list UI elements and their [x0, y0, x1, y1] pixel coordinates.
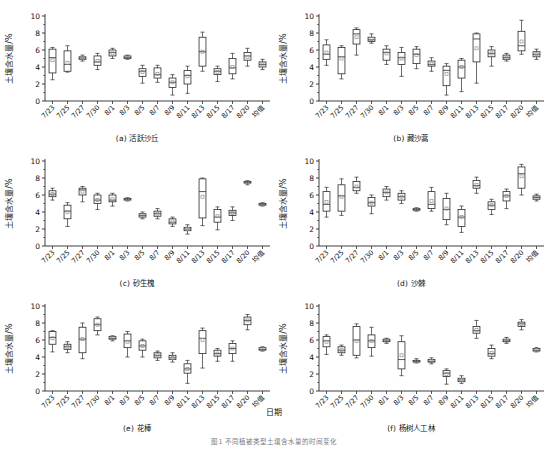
svg-text:0: 0 — [309, 387, 314, 396]
svg-text:8/1: 8/1 — [103, 104, 116, 117]
svg-text:土壤含水量/%: 土壤含水量/% — [4, 178, 14, 229]
svg-text:6: 6 — [35, 191, 40, 200]
svg-text:8/20: 8/20 — [509, 249, 525, 265]
svg-text:7/23: 7/23 — [40, 249, 56, 265]
figure-caption: 图1 不同植被类型土壤含水量的时间变化 — [0, 436, 548, 446]
svg-text:8/17: 8/17 — [220, 104, 236, 120]
panel-e-caption: (e) 花棒 — [0, 422, 274, 433]
svg-text:均值: 均值 — [524, 248, 540, 264]
panel-a: 0246810土壤含水量/%7/237/257/277/308/18/38/58… — [0, 4, 274, 149]
svg-text:8/11: 8/11 — [175, 104, 191, 120]
svg-text:8/15: 8/15 — [479, 249, 495, 265]
svg-text:6: 6 — [35, 46, 40, 55]
svg-text:8/13: 8/13 — [464, 104, 480, 120]
panel-c-plot: 0246810土壤含水量/%7/237/257/277/308/18/38/58… — [0, 149, 274, 294]
svg-text:均值: 均值 — [250, 248, 266, 264]
panel-b-plot: 0246810土壤含水量/%7/237/257/277/308/18/38/58… — [274, 4, 548, 149]
svg-text:8/5: 8/5 — [133, 249, 146, 262]
panel-f-caption: (f) 杨树人工林 — [274, 422, 548, 433]
svg-text:7/27: 7/27 — [70, 104, 86, 120]
svg-text:4: 4 — [35, 208, 40, 217]
svg-text:8/13: 8/13 — [190, 249, 206, 265]
svg-text:7/30: 7/30 — [85, 249, 101, 265]
svg-text:均值: 均值 — [250, 103, 266, 119]
svg-text:8/1: 8/1 — [103, 249, 116, 262]
svg-text:8/11: 8/11 — [449, 249, 465, 265]
svg-text:7/30: 7/30 — [85, 104, 101, 120]
svg-text:8/3: 8/3 — [392, 249, 405, 262]
panel-f-plot: 0246810土壤含水量/%7/237/257/277/308/18/38/58… — [274, 294, 548, 439]
svg-text:2: 2 — [309, 370, 314, 379]
svg-text:8/1: 8/1 — [377, 249, 390, 262]
svg-text:2: 2 — [35, 225, 40, 234]
svg-text:土壤含水量/%: 土壤含水量/% — [4, 33, 14, 84]
panel-a-caption: (a) 活跃沙丘 — [0, 132, 274, 143]
svg-text:8/13: 8/13 — [190, 104, 206, 120]
svg-text:土壤含水量/%: 土壤含水量/% — [4, 323, 14, 374]
svg-text:6: 6 — [309, 336, 314, 345]
svg-text:6: 6 — [35, 336, 40, 345]
svg-text:0: 0 — [35, 97, 40, 106]
svg-text:8/5: 8/5 — [407, 104, 420, 117]
panel-f: 0246810土壤含水量/%7/237/257/277/308/18/38/58… — [274, 294, 548, 444]
svg-text:7/25: 7/25 — [329, 104, 345, 120]
svg-text:10: 10 — [304, 12, 314, 21]
svg-text:10: 10 — [30, 12, 40, 21]
panel-d-plot: 0246810土壤含水量/%7/237/257/277/308/18/38/58… — [274, 149, 548, 294]
svg-text:10: 10 — [304, 157, 314, 166]
svg-text:8/17: 8/17 — [220, 249, 236, 265]
svg-text:土壤含水量/%: 土壤含水量/% — [278, 323, 288, 374]
svg-text:7/25: 7/25 — [55, 249, 71, 265]
svg-text:8: 8 — [309, 319, 314, 328]
svg-text:8/17: 8/17 — [494, 249, 510, 265]
svg-text:8: 8 — [35, 29, 40, 38]
svg-text:8/15: 8/15 — [205, 104, 221, 120]
panel-d-caption: (d) 沙棘 — [274, 277, 548, 288]
svg-text:7/30: 7/30 — [359, 104, 375, 120]
panel-c-caption: (c) 砂生槐 — [0, 277, 274, 288]
svg-text:8: 8 — [35, 174, 40, 183]
panel-a-plot: 0246810土壤含水量/%7/237/257/277/308/18/38/58… — [0, 4, 274, 149]
svg-text:8: 8 — [35, 319, 40, 328]
svg-text:4: 4 — [309, 208, 314, 217]
svg-text:0: 0 — [35, 387, 40, 396]
svg-text:6: 6 — [309, 46, 314, 55]
svg-text:2: 2 — [35, 80, 40, 89]
svg-text:均值: 均值 — [524, 103, 540, 119]
svg-text:0: 0 — [309, 242, 314, 251]
svg-text:2: 2 — [309, 225, 314, 234]
svg-text:7/25: 7/25 — [55, 104, 71, 120]
svg-text:7/25: 7/25 — [329, 249, 345, 265]
svg-text:4: 4 — [35, 63, 40, 72]
svg-text:8/5: 8/5 — [407, 249, 420, 262]
svg-text:8/3: 8/3 — [118, 104, 131, 117]
svg-text:8/7: 8/7 — [148, 104, 161, 117]
svg-text:8/20: 8/20 — [235, 104, 251, 120]
svg-text:8/5: 8/5 — [133, 104, 146, 117]
panel-c: 0246810土壤含水量/%7/237/257/277/308/18/38/58… — [0, 149, 274, 294]
svg-text:8/11: 8/11 — [175, 249, 191, 265]
svg-text:8/3: 8/3 — [118, 249, 131, 262]
svg-text:10: 10 — [30, 157, 40, 166]
svg-text:8/7: 8/7 — [422, 249, 435, 262]
svg-text:7/23: 7/23 — [314, 249, 330, 265]
panel-b-caption: (b) 藏沙蒿 — [274, 132, 548, 143]
svg-text:2: 2 — [309, 80, 314, 89]
svg-text:10: 10 — [30, 302, 40, 311]
svg-text:4: 4 — [35, 353, 40, 362]
svg-text:7/27: 7/27 — [344, 249, 360, 265]
svg-text:7/23: 7/23 — [40, 104, 56, 120]
svg-text:8/20: 8/20 — [509, 104, 525, 120]
panel-e-plot: 0246810土壤含水量/%7/237/257/277/308/18/38/58… — [0, 294, 274, 439]
svg-text:8/13: 8/13 — [464, 249, 480, 265]
svg-text:10: 10 — [304, 302, 314, 311]
panel-b: 0246810土壤含水量/%7/237/257/277/308/18/38/58… — [274, 4, 548, 149]
svg-text:7/30: 7/30 — [359, 249, 375, 265]
panel-grid: 0246810土壤含水量/%7/237/257/277/308/18/38/58… — [0, 4, 548, 409]
svg-text:0: 0 — [309, 97, 314, 106]
svg-text:8/1: 8/1 — [377, 104, 390, 117]
svg-text:4: 4 — [309, 63, 314, 72]
figure-soil-moisture-boxplots: 0246810土壤含水量/%7/237/257/277/308/18/38/58… — [0, 0, 548, 449]
svg-text:4: 4 — [309, 353, 314, 362]
svg-text:2: 2 — [35, 370, 40, 379]
